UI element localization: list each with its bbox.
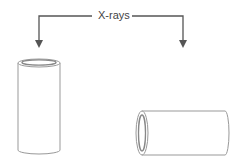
left-arrow-line (39, 16, 92, 40)
diagram-canvas (0, 0, 246, 166)
right-arrow-line (132, 16, 183, 40)
vertical-cylinder (18, 59, 60, 154)
right-arrowhead-icon (179, 40, 187, 48)
left-arrowhead-icon (35, 40, 43, 48)
xrays-label: X-rays (96, 9, 132, 22)
horizontal-cylinder (136, 111, 229, 155)
